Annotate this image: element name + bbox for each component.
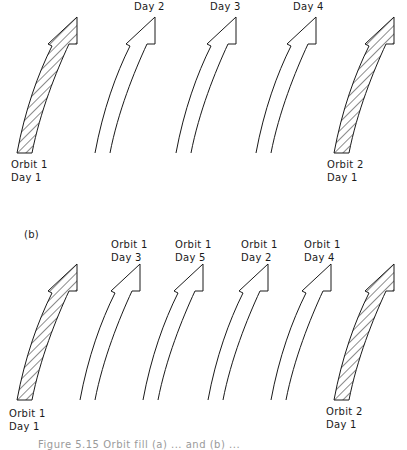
arrow-orbit2-day1-b [334, 264, 394, 400]
label-orbit2-day1-b: Day 1 [326, 418, 357, 431]
label-day4-a: Day 4 [293, 0, 324, 13]
panel-b-label: (b) [24, 228, 39, 241]
panel-b-arrows [17, 264, 394, 400]
arrow-orbit1-day3-b [80, 264, 140, 400]
label-b3-day: Day 2 [241, 251, 272, 264]
label-b1-orbit: Orbit 1 [111, 238, 148, 251]
arrow-orbit1-day4-b [271, 264, 331, 400]
label-b4-orbit: Orbit 1 [304, 238, 341, 251]
arrow-orbit1-day1-a [17, 17, 77, 153]
arrow-day4-a [256, 17, 316, 153]
arrow-orbit1-day5-b [143, 264, 203, 400]
label-orbit2-b: Orbit 2 [326, 405, 363, 418]
label-day1-a: Day 1 [11, 171, 42, 184]
arrow-orbit2-day1-a [334, 17, 394, 153]
panel-a-arrows [17, 17, 394, 153]
arrow-day3-a [176, 17, 236, 153]
label-b2-day: Day 5 [175, 251, 206, 264]
label-b4-day: Day 4 [304, 251, 335, 264]
label-day1-b: Day 1 [9, 420, 40, 433]
label-orbit1-a: Orbit 1 [11, 158, 48, 171]
label-day2-a: Day 2 [134, 0, 165, 13]
label-orbit2-a: Orbit 2 [327, 158, 364, 171]
label-b2-orbit: Orbit 1 [175, 238, 212, 251]
label-b3-orbit: Orbit 1 [241, 238, 278, 251]
label-b1-day: Day 3 [111, 251, 142, 264]
arrow-orbit1-day1-b [17, 264, 77, 400]
label-orbit1-b: Orbit 1 [9, 407, 46, 420]
arrow-day2-a [95, 17, 155, 153]
figure-caption: Figure 5.15 Orbit fill (a) ... and (b) .… [38, 439, 240, 450]
label-orbit2-day1-a: Day 1 [327, 171, 358, 184]
arrow-orbit1-day2-b [208, 264, 268, 400]
label-day3-a: Day 3 [210, 0, 241, 13]
